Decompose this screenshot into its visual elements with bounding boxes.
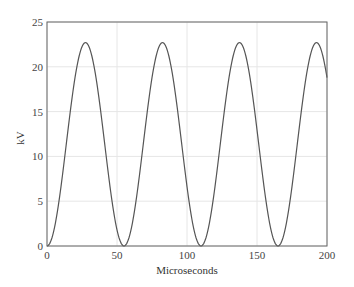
y-tick-label: 5 <box>38 195 44 207</box>
x-tick-label: 50 <box>112 249 124 261</box>
x-axis-label: Microseconds <box>156 264 218 276</box>
x-tick-label: 100 <box>179 249 196 261</box>
y-tick-label: 20 <box>32 61 44 73</box>
x-tick-label: 150 <box>249 249 266 261</box>
y-axis-label: kV <box>14 131 26 145</box>
x-tick-label: 0 <box>44 249 50 261</box>
x-tick-labels: 050100150200 <box>44 249 336 261</box>
gridlines <box>47 22 327 246</box>
x-tick-label: 200 <box>319 249 336 261</box>
y-tick-labels: 0510152025 <box>32 16 44 252</box>
y-tick-label: 25 <box>32 16 44 28</box>
chart: 050100150200 0510152025 Microseconds kV <box>0 0 354 287</box>
y-tick-label: 10 <box>32 150 44 162</box>
y-tick-label: 0 <box>38 240 44 252</box>
y-tick-label: 15 <box>32 106 44 118</box>
